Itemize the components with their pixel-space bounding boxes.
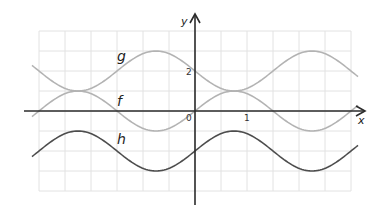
origin-label: 0 — [186, 113, 192, 123]
function-graph: y x 0 1 2 g f h — [0, 0, 385, 214]
x-axis-label: x — [357, 114, 365, 127]
y-axis-label: y — [180, 15, 188, 28]
y-tick-2-label: 2 — [186, 67, 192, 77]
curve-f-label: f — [117, 93, 124, 109]
x-tick-1-label: 1 — [244, 113, 250, 123]
curve-g-label: g — [117, 48, 126, 64]
axes — [24, 14, 365, 205]
curve-h-label: h — [117, 131, 126, 147]
